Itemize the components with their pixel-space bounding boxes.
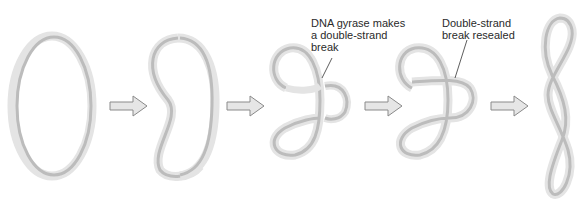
- stage-supercoiled: [545, 18, 572, 194]
- stage-break-resealed: [400, 40, 473, 155]
- label-line: break: [311, 41, 405, 53]
- stage-double-strand-break: [274, 48, 347, 156]
- arrow-icon: [227, 96, 264, 116]
- stage-relaxed-circle: [12, 36, 92, 176]
- label-double-strand-break: DNA gyrase makes a double-strand break: [311, 17, 405, 53]
- label-line: a double-strand: [311, 29, 405, 41]
- label-line: DNA gyrase makes: [311, 17, 405, 29]
- leader-line: [322, 58, 332, 78]
- stage-writhed-loop: [153, 38, 215, 176]
- leader-line: [455, 40, 467, 78]
- arrow-icon: [365, 96, 402, 116]
- arrow-icon: [110, 96, 147, 116]
- label-line: break resealed: [442, 29, 515, 41]
- label-line: Double-strand: [442, 17, 515, 29]
- arrow-icon: [491, 96, 528, 116]
- label-break-resealed: Double-strand break resealed: [442, 17, 515, 41]
